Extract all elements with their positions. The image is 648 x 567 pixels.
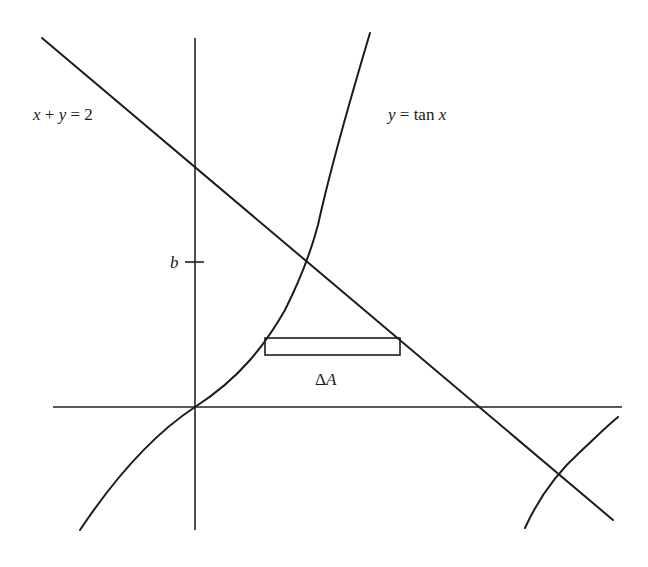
- line-x-plus-y-equals-2: [42, 38, 613, 520]
- area-strip-rectangle: [265, 338, 400, 355]
- delta-a-label: ΔA: [315, 370, 337, 389]
- diagram-canvas: x + y = 2 y = tan x b ΔA: [0, 0, 648, 567]
- curve-equation-label: y = tan x: [386, 105, 447, 124]
- line-equation-label: x + y = 2: [32, 105, 93, 124]
- b-tick-label: b: [170, 253, 179, 272]
